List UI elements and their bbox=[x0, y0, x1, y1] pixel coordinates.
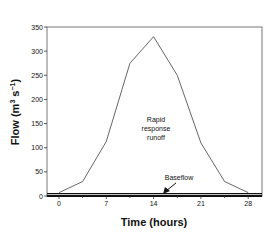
y-tick-label: 100 bbox=[31, 144, 43, 151]
runoff-annotation: Rapid response runoff bbox=[142, 116, 171, 141]
y-axis: 050100150200250300350 bbox=[31, 24, 47, 200]
y-tick-label: 150 bbox=[31, 120, 43, 127]
y-axis-title: Flow (m3 s−1) bbox=[9, 79, 21, 146]
y-tick-label: 0 bbox=[39, 193, 43, 200]
y-tick-label: 250 bbox=[31, 72, 43, 79]
x-tick-label: 14 bbox=[150, 200, 158, 207]
svg-text:Baseflow: Baseflow bbox=[165, 174, 194, 181]
y-tick-label: 50 bbox=[35, 168, 43, 175]
x-tick-label: 0 bbox=[57, 200, 61, 207]
y-tick-label: 300 bbox=[31, 48, 43, 55]
svg-text:response: response bbox=[142, 125, 171, 133]
x-tick-label: 21 bbox=[197, 200, 205, 207]
x-tick-label: 7 bbox=[104, 200, 108, 207]
plot-frame bbox=[47, 27, 262, 196]
runoff-line bbox=[59, 37, 248, 193]
x-tick-label: 28 bbox=[244, 200, 252, 207]
svg-text:Rapid: Rapid bbox=[147, 116, 165, 124]
baseflow-annotation: Baseflow bbox=[163, 174, 194, 194]
y-tick-label: 350 bbox=[31, 24, 43, 31]
hydrograph-chart: 050100150200250300350 07142128 Flow (m3 … bbox=[0, 0, 269, 236]
svg-text:runoff: runoff bbox=[147, 134, 165, 141]
plot-border bbox=[47, 27, 262, 196]
y-tick-label: 200 bbox=[31, 96, 43, 103]
x-axis-title: Time (hours) bbox=[121, 216, 188, 228]
x-axis: 07142128 bbox=[47, 196, 262, 207]
